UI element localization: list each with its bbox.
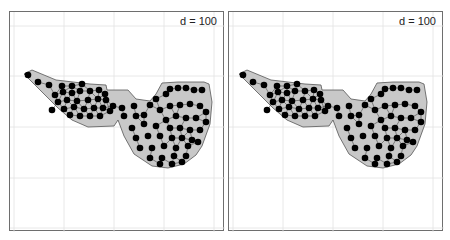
data-point (157, 133, 164, 140)
data-point (157, 107, 164, 114)
panel-label-left: d = 100 (180, 15, 217, 27)
data-point (169, 161, 176, 168)
data-point (177, 125, 184, 132)
data-point (274, 83, 281, 90)
data-point (289, 98, 296, 105)
data-point (173, 145, 180, 152)
data-point (71, 104, 78, 111)
data-point (46, 82, 53, 89)
data-point (386, 153, 393, 160)
data-point (378, 117, 385, 124)
data-point (352, 145, 359, 152)
data-point (402, 127, 409, 134)
data-point (372, 161, 379, 168)
data-point (392, 125, 399, 132)
data-point (133, 135, 140, 142)
data-point (292, 88, 299, 95)
data-point (406, 87, 413, 94)
data-point (25, 72, 32, 79)
data-point (203, 119, 210, 126)
data-point (294, 81, 301, 88)
data-point (270, 99, 277, 106)
panel-label-right: d = 100 (399, 15, 436, 27)
data-point (336, 113, 343, 120)
data-point (318, 97, 325, 104)
data-point (159, 155, 166, 162)
plot-panel-left: d = 100 (9, 11, 224, 231)
data-point (292, 113, 299, 120)
data-point (85, 97, 92, 104)
data-point (392, 102, 399, 109)
data-point (153, 123, 160, 130)
data-point (398, 115, 405, 122)
data-point (102, 91, 109, 98)
data-point (418, 119, 425, 126)
data-point (362, 102, 369, 109)
data-point (197, 103, 204, 110)
data-point (394, 135, 401, 142)
data-point (183, 85, 190, 92)
data-point (362, 155, 369, 162)
data-point (264, 107, 271, 114)
data-point (346, 103, 353, 110)
data-point (59, 83, 66, 90)
data-point (61, 106, 68, 113)
data-point (147, 155, 154, 162)
data-point (169, 135, 176, 142)
data-point (173, 113, 180, 120)
data-point (100, 105, 107, 112)
data-point (55, 99, 62, 106)
data-point (107, 108, 114, 115)
plot-panel-right: d = 100 (228, 11, 443, 231)
data-point (344, 125, 351, 132)
data-point (95, 96, 102, 103)
data-point (129, 125, 136, 132)
plot-area-left (10, 12, 225, 232)
data-point (394, 159, 401, 166)
data-point (402, 101, 409, 108)
data-point (167, 125, 174, 132)
data-point (197, 127, 204, 134)
data-point (91, 105, 98, 112)
data-point (97, 113, 104, 120)
data-point (368, 96, 375, 103)
data-point (179, 135, 186, 142)
data-point (79, 81, 86, 88)
data-point (384, 135, 391, 142)
data-point (193, 115, 200, 122)
data-point (96, 87, 103, 94)
data-point (279, 97, 286, 104)
data-point (322, 108, 329, 115)
data-point (149, 145, 156, 152)
data-point (315, 105, 322, 112)
data-point (412, 127, 419, 134)
data-point (382, 125, 389, 132)
data-point (356, 112, 363, 119)
data-point (49, 107, 56, 114)
data-point (119, 105, 126, 112)
data-point (60, 89, 67, 96)
data-point (312, 113, 319, 120)
data-point (203, 109, 210, 116)
data-point (133, 113, 140, 120)
data-point (187, 127, 194, 134)
data-point (163, 117, 170, 124)
data-point (87, 88, 94, 95)
data-point (74, 98, 81, 105)
data-point (364, 145, 371, 152)
data-point (374, 155, 381, 162)
data-point (187, 101, 194, 108)
data-point (311, 87, 318, 94)
data-point (282, 112, 289, 119)
data-point (376, 143, 383, 150)
data-point (302, 88, 309, 95)
data-point (167, 86, 174, 93)
data-point (408, 115, 415, 122)
data-point (77, 113, 84, 120)
data-point (131, 103, 138, 110)
data-point (183, 153, 190, 160)
data-point (306, 105, 313, 112)
data-point (284, 83, 291, 90)
data-point (77, 88, 84, 95)
data-point (372, 133, 379, 140)
